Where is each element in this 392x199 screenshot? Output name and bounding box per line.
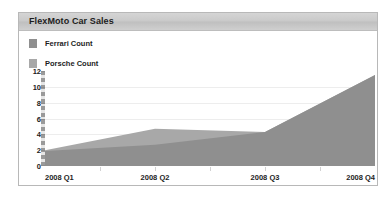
area-series-svg bbox=[45, 71, 375, 166]
x-tick-label-q4: 2008 Q4 bbox=[346, 173, 375, 182]
legend-item-ferrari[interactable]: Ferrari Count bbox=[29, 37, 98, 50]
chart-screenshot: FlexMoto Car Sales Ferrari Count Porsche… bbox=[0, 0, 392, 199]
x-tick-label-q3: 2008 Q3 bbox=[251, 173, 280, 182]
legend-swatch-ferrari-icon bbox=[29, 39, 37, 48]
y-tick-label-10: 10 bbox=[33, 82, 41, 91]
plot-area: 12 10 8 6 4 2 0 bbox=[19, 71, 379, 187]
plot-canvas bbox=[45, 71, 375, 166]
x-tick-label-q2: 2008 Q2 bbox=[141, 173, 170, 182]
legend-label-ferrari: Ferrari Count bbox=[45, 39, 93, 48]
area-series-ferrari bbox=[45, 75, 375, 166]
x-tickmark-2 bbox=[155, 167, 156, 171]
y-axis: 12 10 8 6 4 2 0 bbox=[19, 71, 41, 166]
x-tickmark-4 bbox=[265, 167, 266, 171]
x-tickmark-5 bbox=[320, 167, 321, 171]
x-axis: 2008 Q1 2008 Q2 2008 Q3 2008 Q4 bbox=[45, 167, 375, 173]
x-tick-label-q1: 2008 Q1 bbox=[45, 173, 74, 182]
page-title: FlexMoto Car Sales bbox=[29, 16, 114, 26]
panel-header: FlexMoto Car Sales bbox=[19, 13, 377, 31]
chart-panel: FlexMoto Car Sales Ferrari Count Porsche… bbox=[18, 12, 378, 186]
x-tickmark-1 bbox=[100, 167, 101, 171]
legend-label-porsche: Porsche Count bbox=[45, 59, 98, 68]
x-tickmark-3 bbox=[210, 167, 211, 171]
y-tick-label-12: 12 bbox=[33, 67, 41, 76]
